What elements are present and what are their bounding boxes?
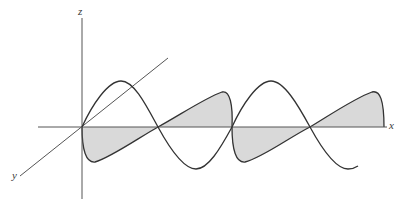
x-axis-label: x — [389, 120, 394, 131]
em-wave-diagram: z y x — [0, 0, 403, 207]
diagram-svg — [0, 0, 403, 207]
z-axis-label: z — [78, 6, 82, 17]
y-axis-label: y — [12, 170, 17, 181]
